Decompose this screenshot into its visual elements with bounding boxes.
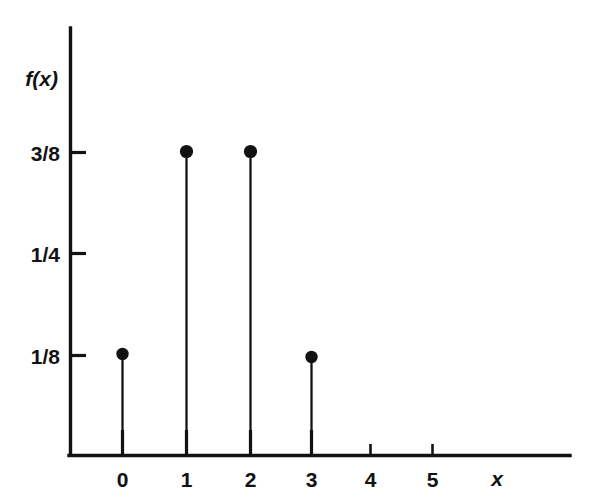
- y-axis-title: f(x): [25, 67, 58, 90]
- y-tick-label-1-8: 1/8: [31, 345, 61, 368]
- x-tick-label-3: 3: [306, 468, 318, 491]
- data-point-x1: [180, 145, 193, 158]
- x-tick-label-0: 0: [117, 468, 129, 491]
- x-tick-label-4: 4: [365, 468, 377, 491]
- probability-mass-function-figure: 3/8 1/4 1/8 f(x) 0 1 2 3 4 5 x: [0, 0, 593, 502]
- x-tick-label-5: 5: [427, 468, 439, 491]
- y-tick-label-3-8: 3/8: [31, 142, 61, 165]
- data-point-x3: [305, 351, 317, 363]
- stem-plot-canvas: 3/8 1/4 1/8 f(x) 0 1 2 3 4 5 x: [0, 0, 593, 502]
- x-tick-label-2: 2: [245, 468, 257, 491]
- x-axis-title: x: [490, 467, 504, 490]
- y-tick-label-1-4: 1/4: [31, 243, 61, 266]
- data-point-x0: [116, 348, 128, 360]
- data-point-x2: [244, 145, 257, 158]
- x-tick-label-1: 1: [181, 468, 193, 491]
